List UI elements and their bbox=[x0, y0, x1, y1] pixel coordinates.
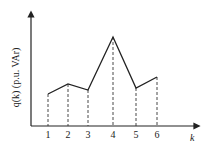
x-tick-1: 1 bbox=[42, 129, 54, 140]
chart-canvas bbox=[0, 0, 211, 147]
x-tick-6: 6 bbox=[151, 129, 163, 140]
q-series-line bbox=[48, 37, 157, 94]
x-tick-2: 2 bbox=[62, 129, 74, 140]
drop-lines bbox=[48, 37, 157, 126]
x-axis-label: k bbox=[190, 132, 194, 143]
y-axis-label: q(k) (p.u. VAr) bbox=[10, 33, 21, 123]
x-tick-3: 3 bbox=[82, 129, 94, 140]
x-tick-4: 4 bbox=[107, 129, 119, 140]
x-tick-5: 5 bbox=[130, 129, 142, 140]
